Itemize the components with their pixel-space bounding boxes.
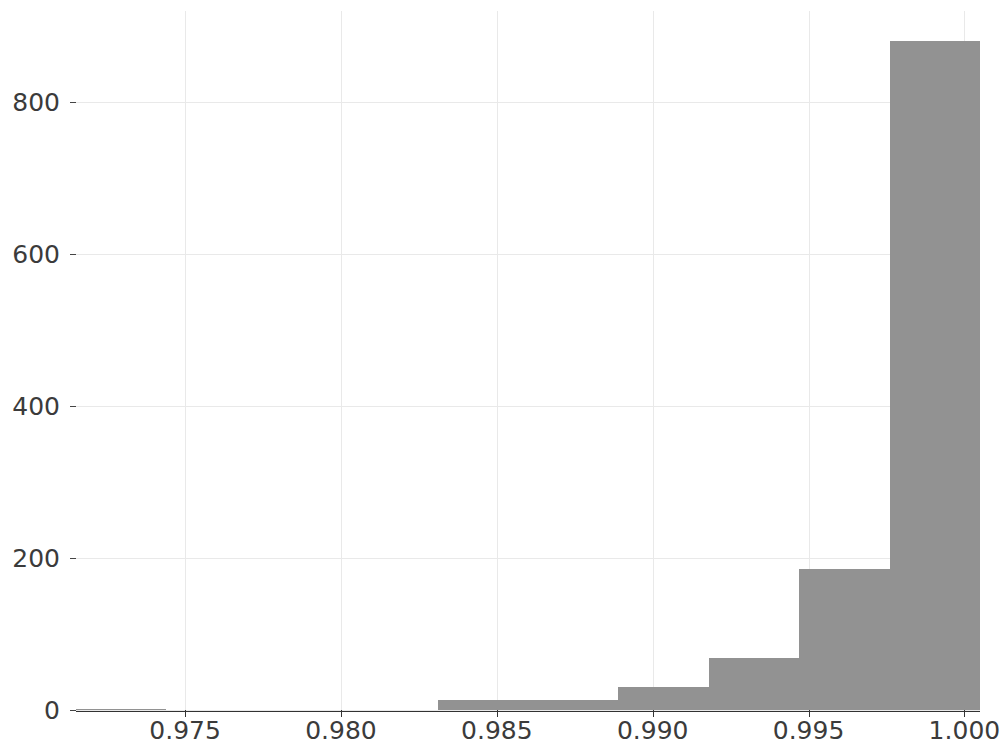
gridline-vertical — [653, 11, 654, 710]
y-tick-label: 0 — [0, 698, 60, 723]
histogram-bar — [76, 709, 166, 710]
y-tick-label: 600 — [0, 242, 60, 267]
y-tick-label: 200 — [0, 546, 60, 571]
y-tick-label: 800 — [0, 90, 60, 115]
plot-area — [76, 11, 980, 710]
histogram-bar — [890, 41, 980, 710]
x-tick-label: 0.980 — [305, 718, 377, 743]
x-tick-label: 1.000 — [929, 718, 1000, 743]
histogram-bar — [799, 569, 889, 710]
x-tick-label: 0.975 — [149, 718, 221, 743]
x-tick-label: 0.995 — [773, 718, 845, 743]
y-tick-label: 400 — [0, 394, 60, 419]
y-tick-mark — [70, 710, 76, 711]
x-tick-label: 0.985 — [461, 718, 533, 743]
gridline-horizontal — [76, 558, 980, 559]
gridline-vertical — [341, 11, 342, 710]
histogram-bar — [438, 700, 528, 710]
gridline-horizontal — [76, 254, 980, 255]
y-tick-mark — [70, 102, 76, 103]
gridline-horizontal — [76, 406, 980, 407]
histogram-bar — [709, 658, 799, 710]
histogram-bar — [618, 687, 708, 710]
gridline-vertical — [497, 11, 498, 710]
gridline-horizontal — [76, 102, 980, 103]
x-tick-label: 0.990 — [617, 718, 689, 743]
y-tick-mark — [70, 558, 76, 559]
histogram-bar — [528, 700, 618, 710]
y-tick-mark — [70, 254, 76, 255]
gridline-vertical — [185, 11, 186, 710]
gridline-horizontal — [76, 710, 980, 711]
y-tick-mark — [70, 406, 76, 407]
